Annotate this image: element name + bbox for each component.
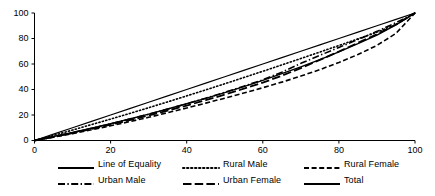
x-tick-label-0: 0 <box>15 146 55 155</box>
legend-swatch-urban-female <box>182 175 220 185</box>
legend-label-total: Total <box>344 175 364 185</box>
legend-swatch-total <box>303 175 341 185</box>
legend-item-total[interactable]: Total <box>303 172 423 188</box>
legend-item-rural-female[interactable]: Rural Female <box>303 156 423 172</box>
legend-item-urban-female[interactable]: Urban Female <box>182 172 303 188</box>
data-series-group <box>35 13 416 141</box>
x-tick-label-20: 20 <box>91 146 131 155</box>
legend-label-rural-female: Rural Female <box>344 159 399 169</box>
legend-row-2: Urban Male Urban Female Total <box>0 172 435 188</box>
y-tick-label-60: 60 <box>0 60 29 69</box>
legend-item-line-of-equality[interactable]: Line of Equality <box>57 156 182 172</box>
chart-legend: Line of Equality Rural Male Rural Female… <box>0 156 435 196</box>
series-line-line-of-equality <box>35 13 416 141</box>
legend-item-urban-male[interactable]: Urban Male <box>57 172 182 188</box>
legend-swatch-line-of-equality <box>57 159 95 169</box>
x-tick-label-80: 80 <box>319 146 359 155</box>
y-tick-label-100: 100 <box>0 9 29 18</box>
legend-label-line-of-equality: Line of Equality <box>98 159 161 169</box>
x-tick-label-40: 40 <box>167 146 207 155</box>
y-tick-label-80: 80 <box>0 34 29 43</box>
legend-swatch-rural-female <box>303 159 341 169</box>
y-tick-label-40: 40 <box>0 85 29 94</box>
x-tick-label-60: 60 <box>243 146 283 155</box>
legend-label-urban-female: Urban Female <box>223 175 281 185</box>
x-tick-label-100: 100 <box>395 146 435 155</box>
lorenz-curve-chart: 020406080100 020406080100 Line of Equali… <box>0 0 435 196</box>
legend-row-1: Line of Equality Rural Male Rural Female <box>0 156 435 172</box>
y-tick-label-20: 20 <box>0 111 29 120</box>
y-tick-label-0: 0 <box>0 136 29 145</box>
legend-label-rural-male: Rural Male <box>223 159 268 169</box>
legend-item-rural-male[interactable]: Rural Male <box>182 156 303 172</box>
legend-swatch-rural-male <box>182 159 220 169</box>
legend-swatch-urban-male <box>57 175 95 185</box>
legend-label-urban-male: Urban Male <box>98 175 146 185</box>
